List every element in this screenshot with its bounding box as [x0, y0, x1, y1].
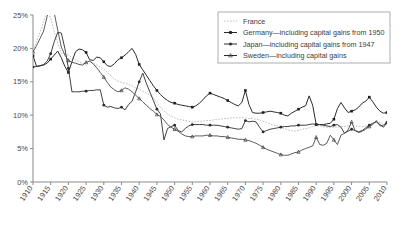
x-tick-label: 1965: [212, 184, 229, 203]
legend-label: Japan—including capital gains from 1947: [243, 40, 374, 49]
legend-label: France: [243, 17, 265, 26]
x-tick-label: 1975: [248, 184, 265, 203]
x-tick-label: 1970: [230, 184, 247, 203]
y-tick-label: 25%: [13, 11, 28, 20]
legend-item-sweden[interactable]: Sweden—including capital gains: [224, 51, 347, 60]
legend-item-germany[interactable]: Germany—including capital gains from 195…: [224, 28, 384, 37]
x-tick-label: 1995: [319, 184, 336, 203]
chart-container: 0%5%10%15%20%25% 19101915192019251930193…: [0, 0, 404, 227]
x-tick-label: 2010: [372, 184, 389, 203]
x-tick-label: 1940: [124, 184, 141, 203]
line-chart: 0%5%10%15%20%25% 19101915192019251930193…: [0, 0, 404, 227]
x-tick-label: 2005: [354, 184, 371, 203]
y-tick-label: 10%: [13, 111, 28, 120]
x-tick-label: 1990: [301, 184, 318, 203]
x-tick-label: 1980: [265, 184, 282, 203]
x-tick-label: 1920: [53, 184, 70, 203]
chart-legend: FranceGermany—including capital gains fr…: [218, 12, 390, 63]
x-tick-label: 1910: [18, 184, 35, 203]
legend-label: Germany—including capital gains from 195…: [243, 28, 384, 37]
x-tick-label: 1935: [106, 184, 123, 203]
x-tick-label: 1950: [159, 184, 176, 203]
x-tick-label: 1955: [177, 184, 194, 203]
x-tick-label: 1915: [35, 184, 52, 203]
x-tick-label: 1985: [283, 184, 300, 203]
y-tick-label: 15%: [13, 77, 28, 86]
x-tick-label: 1945: [142, 184, 159, 203]
x-tick-label: 1925: [71, 184, 88, 203]
y-tick-label: 5%: [17, 144, 28, 153]
legend-label: Sweden—including capital gains: [243, 51, 347, 60]
legend-item-japan[interactable]: Japan—including capital gains from 1947: [224, 40, 374, 49]
x-axis: 1910191519201925193019351940194519501955…: [18, 182, 389, 203]
x-tick-label: 1930: [88, 184, 105, 203]
x-tick-label: 2000: [336, 184, 353, 203]
x-tick-label: 1960: [195, 184, 212, 203]
y-tick-label: 20%: [13, 44, 28, 53]
y-axis: 0%5%10%15%20%25%: [13, 11, 33, 187]
